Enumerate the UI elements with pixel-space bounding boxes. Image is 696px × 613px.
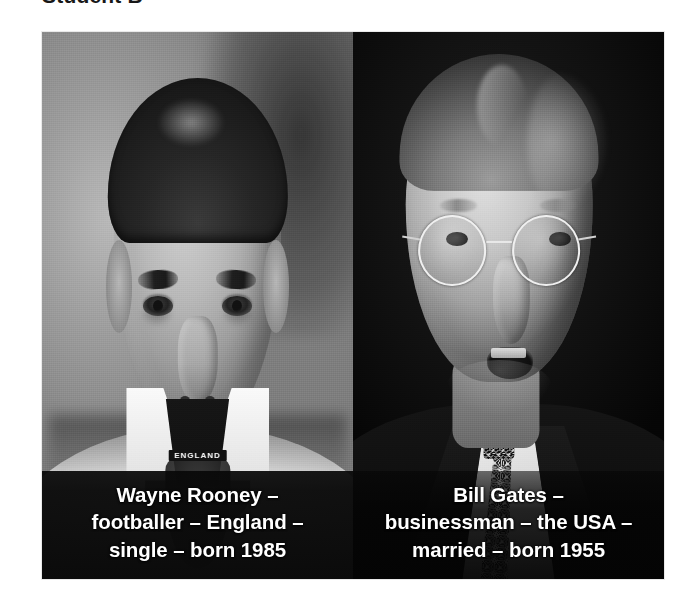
eyeglasses-icon (418, 215, 580, 286)
caption-line-2: footballer – England – (48, 508, 347, 535)
page-title: Student B (42, 0, 143, 8)
ear-left (106, 240, 132, 333)
caption-line-1: Bill Gates – (359, 481, 658, 508)
hair-highlight-left (157, 98, 225, 147)
glasses-lens-left (418, 215, 486, 286)
nose-left (177, 316, 217, 404)
caption-line-2: businessman – the USA – (359, 508, 658, 535)
glasses-lens-right (512, 215, 580, 286)
eyebrow-left-right-photo (440, 199, 477, 212)
caption-wayne-rooney: Wayne Rooney – footballer – England – si… (42, 471, 353, 579)
photo-card-wayne-rooney: ENGLAND Wayne Rooney – footballer – Engl… (42, 32, 353, 579)
hair-highlight-right (527, 70, 608, 212)
eye-right (222, 296, 252, 316)
eyebrow-right-right-photo (540, 199, 577, 212)
teeth-right (491, 348, 525, 358)
caption-bill-gates: Bill Gates – businessman – the USA – mar… (353, 471, 664, 579)
photo-pair-block: ENGLAND Wayne Rooney – footballer – Engl… (42, 32, 664, 579)
photo-card-bill-gates: Bill Gates – businessman – the USA – mar… (353, 32, 664, 579)
jaw-right (446, 360, 552, 415)
caption-line-1: Wayne Rooney – (48, 481, 347, 508)
hair-part-right (477, 65, 527, 147)
caption-line-3: single – born 1985 (48, 536, 347, 563)
caption-line-3: married – born 1955 (359, 536, 658, 563)
glasses-bridge (486, 241, 512, 243)
england-collar-label: ENGLAND (168, 450, 227, 462)
ear-right (263, 240, 289, 333)
eye-left (143, 296, 173, 316)
